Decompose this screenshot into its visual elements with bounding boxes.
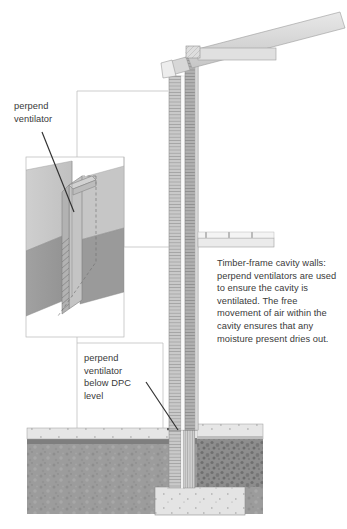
hardcore-fill xyxy=(197,438,263,487)
concrete-strip-footing xyxy=(155,487,245,515)
inset-detail-isometric xyxy=(26,161,124,316)
ground-floor-slab xyxy=(197,424,263,439)
cavity xyxy=(181,76,185,430)
intermediate-floor-joist xyxy=(198,232,274,247)
wall-plate xyxy=(186,46,200,58)
external-paving xyxy=(27,428,182,439)
label-perpend-ventilator-below-dpc: perpend ventilator below DPC level xyxy=(84,352,176,402)
ceiling-joist xyxy=(198,48,276,60)
construction-detail-figure: perpend ventilator perpend ventilator be… xyxy=(0,0,347,529)
foundation-wall xyxy=(169,430,195,488)
label-perpend-ventilator: perpend ventilator xyxy=(14,100,109,125)
note-timber-frame-cavity-walls: Timber-frame cavity walls: perpend venti… xyxy=(217,257,341,345)
inner-timber-frame-leaf xyxy=(185,58,198,430)
roof-rafter xyxy=(168,12,345,75)
